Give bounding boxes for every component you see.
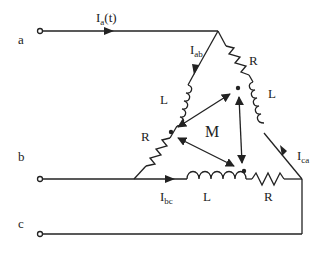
resistor-bc bbox=[252, 173, 284, 185]
terminal-a-label: a bbox=[18, 32, 24, 47]
terminal-a-node bbox=[38, 29, 43, 34]
terminal-c-label: c bbox=[18, 216, 24, 231]
arrow-ia bbox=[104, 27, 114, 35]
terminal-b-wire bbox=[38, 175, 188, 183]
label-l-bc: L bbox=[203, 189, 211, 204]
label-r-bc: R bbox=[264, 189, 273, 204]
current-label-ica: Ica bbox=[297, 148, 309, 165]
terminal-b-node bbox=[38, 177, 43, 182]
terminal-c-node bbox=[38, 232, 43, 237]
polarity-dot-bc bbox=[242, 169, 246, 173]
circuit-diagram: a b c Ia(t) Iab Ibc Ica L R R L L R M bbox=[0, 0, 323, 253]
coupling-arrow-ca-bc bbox=[239, 97, 242, 163]
label-l-ca: L bbox=[268, 86, 276, 101]
label-r-ca: R bbox=[249, 53, 258, 68]
current-label-iab: Iab bbox=[190, 42, 203, 59]
current-label-ia: Ia(t) bbox=[96, 10, 117, 27]
coupling-arrow-ab-bc bbox=[178, 138, 234, 166]
terminal-c-wire bbox=[38, 179, 303, 237]
inductor-bc bbox=[187, 172, 246, 180]
inductor-ca bbox=[249, 82, 264, 123]
polarity-dot-ab bbox=[169, 130, 173, 134]
terminal-b-label: b bbox=[18, 149, 25, 164]
terminal-a-wire bbox=[38, 27, 219, 35]
branch-ca bbox=[218, 31, 302, 179]
arrow-iab bbox=[192, 64, 199, 75]
current-label-ibc: Ibc bbox=[160, 189, 173, 206]
polarity-dot-ca bbox=[236, 86, 240, 90]
resistor-ca bbox=[226, 46, 249, 75]
label-l-ab: L bbox=[160, 92, 168, 107]
branch-ab bbox=[134, 31, 218, 179]
mutual-inductance-label: M bbox=[205, 123, 219, 140]
coupling-arrow-ab-ca bbox=[178, 94, 230, 127]
circuit-svg: a b c Ia(t) Iab Ibc Ica L R R L L R M bbox=[0, 0, 323, 253]
label-r-ab: R bbox=[141, 129, 150, 144]
arrow-ibc bbox=[165, 175, 175, 183]
branch-bc bbox=[187, 172, 302, 186]
